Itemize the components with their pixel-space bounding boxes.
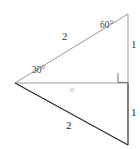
- label-upper-leg: 1: [131, 39, 137, 50]
- label-base: a: [70, 85, 74, 94]
- label-upper-hypotenuse: 2: [62, 31, 68, 42]
- label-lower-hypotenuse: 2: [66, 120, 72, 131]
- label-angle-left: 30°: [32, 66, 45, 76]
- geometry-figure: 2 60° 1 30° a 2 1: [0, 0, 140, 149]
- right-angle-marker-icon: [118, 73, 128, 82]
- label-angle-top: 60°: [100, 21, 113, 31]
- label-lower-leg: 1: [131, 107, 137, 118]
